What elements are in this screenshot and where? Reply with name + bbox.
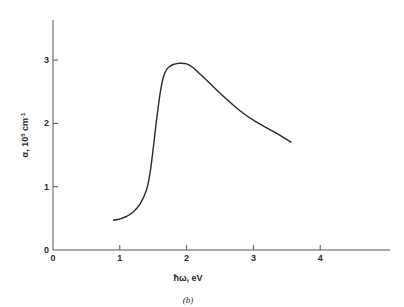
y-label-symbol: α, 10 <box>20 137 30 158</box>
y-tick-label: 0 <box>44 245 49 255</box>
y-axis-label: α, 105 cm-1 <box>20 112 30 157</box>
figure-caption: (b) <box>183 295 194 305</box>
y-tick-label: 2 <box>44 118 49 128</box>
x-tick-label: 0 <box>50 253 55 263</box>
x-tick-label: 1 <box>117 253 122 263</box>
y-tick-label: 1 <box>44 182 49 192</box>
y-tick-label: 3 <box>44 55 49 65</box>
y-label-exp2: -1 <box>20 112 26 118</box>
y-label-unit: cm <box>20 118 30 134</box>
x-axis-label: ħω, eV <box>173 273 202 283</box>
absorption-chart: 0123 01234 α, 105 cm-1 ħω, eV (b) <box>0 0 404 307</box>
x-tick-label: 4 <box>318 253 323 263</box>
x-tick-label: 3 <box>251 253 256 263</box>
x-ticks: 01234 <box>50 245 322 263</box>
data-line <box>113 63 291 220</box>
y-ticks: 0123 <box>44 55 58 255</box>
x-tick-label: 2 <box>184 253 189 263</box>
